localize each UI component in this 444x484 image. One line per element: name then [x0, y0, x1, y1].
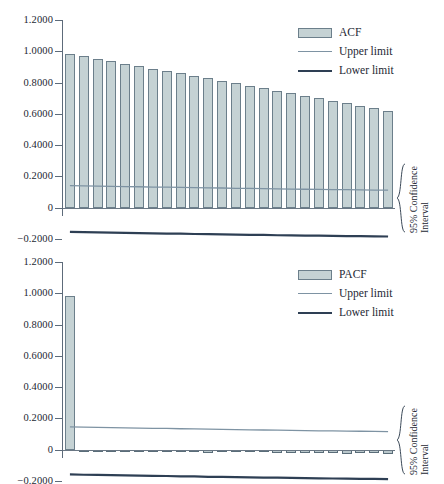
y-axis-tick — [55, 145, 62, 146]
y-axis-label-wrap: 0.6000 — [0, 351, 53, 361]
y-axis-label: 1.0000 — [1, 46, 53, 56]
ci-caption-line-2: Interval — [419, 163, 431, 233]
legend-row-acf: ACF — [298, 24, 438, 41]
y-axis-tick — [55, 293, 62, 294]
upper-limit-line — [70, 427, 388, 432]
pacf-swatch-icon — [298, 270, 332, 280]
y-axis-tick — [55, 356, 62, 357]
correlogram-figure: 1.20001.00000.80000.60000.40000.20000−0.… — [0, 0, 444, 484]
legend-label-pacf: PACF — [339, 268, 367, 281]
y-axis-label-wrap: 0.2000 — [0, 171, 53, 181]
y-axis-label-wrap: −0.2000 — [0, 476, 53, 484]
pacf-confidence-interval-annotation: 95% Confidence Interval — [396, 405, 444, 475]
y-axis-tick — [55, 20, 62, 21]
y-axis-tick — [55, 51, 62, 52]
y-axis-tick — [55, 262, 62, 263]
y-axis-label: 0.4000 — [1, 382, 53, 392]
y-axis-label-wrap: 0.4000 — [0, 140, 53, 150]
y-axis-tick — [55, 114, 62, 115]
legend-row-upper-limit: Upper limit — [298, 285, 438, 302]
y-axis-label-wrap: 1.2000 — [0, 15, 53, 25]
y-axis-label: 0.2000 — [1, 413, 53, 423]
y-axis-tick — [55, 450, 62, 451]
y-axis-label: 0.8000 — [1, 320, 53, 330]
y-axis-label-wrap: 1.2000 — [0, 257, 53, 267]
legend-label-acf: ACF — [339, 26, 361, 39]
ci-caption-line-1: 95% Confidence — [408, 405, 420, 475]
y-axis-label-wrap: 1.0000 — [0, 288, 53, 298]
acf-ci-caption: 95% Confidence Interval — [405, 163, 433, 233]
acf-swatch-icon — [298, 28, 332, 38]
legend-row-lower-limit: Lower limit — [298, 304, 438, 321]
upper-limit-line — [70, 186, 388, 191]
y-axis-label: 1.2000 — [1, 257, 53, 267]
y-axis-tick — [55, 325, 62, 326]
y-axis-label: 0.4000 — [1, 140, 53, 150]
y-axis-label: 0 — [1, 445, 53, 455]
y-axis-tick — [55, 208, 62, 209]
y-axis-label-wrap: 0.2000 — [0, 413, 53, 423]
acf-chart-panel: 1.20001.00000.80000.60000.40000.20000−0.… — [0, 0, 444, 242]
acf-legend: ACF Upper limit Lower limit — [298, 24, 438, 81]
legend-row-lower-limit: Lower limit — [298, 62, 438, 79]
y-axis-label-wrap: 0.6000 — [0, 109, 53, 119]
y-axis-label: 0.6000 — [1, 351, 53, 361]
y-axis-tick — [55, 418, 62, 419]
y-axis-tick — [55, 387, 62, 388]
legend-label-upper-limit: Upper limit — [339, 287, 392, 300]
y-axis-label: 1.2000 — [1, 15, 53, 25]
y-axis-tick — [55, 83, 62, 84]
upper-limit-line-icon — [298, 288, 332, 299]
y-axis-label: 0 — [1, 203, 53, 213]
legend-row-pacf: PACF — [298, 266, 438, 283]
y-axis-label-wrap: 0.4000 — [0, 382, 53, 392]
y-axis-label: 1.0000 — [1, 288, 53, 298]
y-axis-tick — [55, 481, 62, 482]
ci-caption-line-1: 95% Confidence — [408, 163, 420, 233]
legend-label-upper-limit: Upper limit — [339, 45, 392, 58]
y-axis-label: 0.8000 — [1, 78, 53, 88]
pacf-legend: PACF Upper limit Lower limit — [298, 266, 438, 323]
pacf-ci-caption: 95% Confidence Interval — [405, 405, 433, 475]
y-axis-label-wrap: 0.8000 — [0, 320, 53, 330]
lower-limit-line-icon — [298, 65, 332, 76]
lower-limit-line — [70, 474, 388, 479]
ci-caption-line-2: Interval — [419, 405, 431, 475]
upper-limit-line-icon — [298, 46, 332, 57]
lower-limit-line — [70, 232, 388, 237]
legend-row-upper-limit: Upper limit — [298, 43, 438, 60]
y-axis-label: −0.2000 — [1, 476, 53, 484]
y-axis-label-wrap: 0 — [0, 445, 53, 455]
y-axis-label-wrap: 0 — [0, 203, 53, 213]
lower-limit-line-icon — [298, 307, 332, 318]
y-axis-label-wrap: 1.0000 — [0, 46, 53, 56]
y-axis-tick — [55, 239, 62, 240]
y-axis-label: 0.2000 — [1, 171, 53, 181]
legend-label-lower-limit: Lower limit — [339, 306, 394, 319]
y-axis-label-wrap: 0.8000 — [0, 78, 53, 88]
y-axis-tick — [55, 176, 62, 177]
pacf-chart-panel: 1.20001.00000.80000.60000.40000.20000−0.… — [0, 242, 444, 484]
y-axis-label: 0.6000 — [1, 109, 53, 119]
acf-confidence-interval-annotation: 95% Confidence Interval — [396, 163, 444, 233]
legend-label-lower-limit: Lower limit — [339, 64, 394, 77]
